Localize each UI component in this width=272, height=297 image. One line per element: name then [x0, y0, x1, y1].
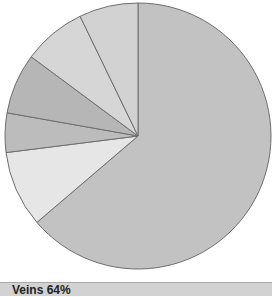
selected-slice-label-bar: Veins 64% [0, 282, 272, 296]
pie-chart [0, 0, 272, 280]
selected-slice-label: Veins 64% [12, 283, 71, 297]
